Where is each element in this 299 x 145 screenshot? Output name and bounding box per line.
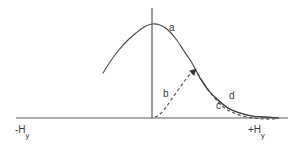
axis-label-negative-hy-text: -H	[15, 124, 26, 135]
curve-label-b: b	[163, 89, 169, 99]
axis-label-negative-hy-subscript: y	[26, 131, 30, 140]
axis-label-positive-hy: +Hy	[248, 125, 265, 138]
axis-label-negative-hy: -Hy	[15, 125, 29, 138]
axis-label-positive-hy-text: +H	[248, 124, 261, 135]
curve-b-dashed-rising	[155, 69, 195, 117]
junction-arrowhead-icon	[189, 68, 197, 76]
curve-label-c: c	[216, 101, 221, 111]
axis-label-positive-hy-subscript: y	[261, 131, 265, 140]
curve-d-solid-tail	[200, 78, 278, 118]
curve-label-d: d	[229, 91, 235, 101]
curve-label-a: a	[169, 23, 175, 33]
figure-canvas: a b c d -Hy +Hy	[0, 0, 299, 145]
